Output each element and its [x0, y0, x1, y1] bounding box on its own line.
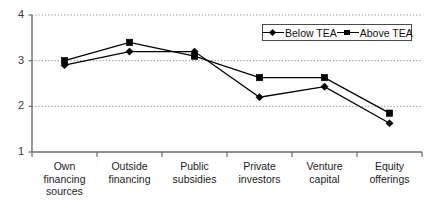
legend-label: Below TEA	[285, 27, 337, 39]
datapoint-below-tea-4	[321, 83, 328, 90]
datapoint-above-tea-2	[191, 53, 197, 59]
x-category-label-0: Own financingsources	[32, 160, 97, 198]
legend-diamond-icon	[268, 28, 275, 35]
line-chart: 1234 Own financingsourcesOutsidefinancin…	[0, 0, 434, 200]
x-category-label-3: Privateinvestors	[227, 160, 292, 185]
legend-label: Above TEA	[360, 27, 413, 39]
y-tick-label-3: 3	[8, 55, 24, 66]
legend-marker-diamond-icon	[262, 28, 284, 38]
legend-entry-below-tea[interactable]: Below TEA	[262, 27, 337, 39]
y-tick-label-2: 2	[8, 100, 24, 111]
x-axis-ticks	[32, 152, 422, 157]
x-category-label-4: Venturecapital	[292, 160, 357, 185]
series-line-above-tea	[65, 42, 390, 113]
datapoint-above-tea-4	[321, 74, 327, 80]
datapoint-below-tea-1	[126, 48, 133, 55]
legend-entry-above-tea[interactable]: Above TEA	[337, 27, 413, 39]
x-category-label-1: Outsidefinancing	[97, 160, 162, 185]
y-tick-label-1: 1	[8, 146, 24, 157]
legend: Below TEAAbove TEA	[262, 24, 412, 41]
datapoint-below-tea-5	[386, 120, 393, 127]
datapoint-above-tea-5	[386, 110, 392, 116]
x-category-label-2: Publicsubsidies	[162, 160, 227, 185]
x-category-label-5: Equityofferings	[357, 160, 422, 185]
y-tick-label-4: 4	[8, 9, 24, 20]
legend-marker-square-icon	[337, 28, 359, 38]
datapoint-above-tea-1	[126, 39, 132, 45]
datapoint-above-tea-0	[61, 57, 67, 63]
series-layer	[61, 39, 393, 127]
series-line-below-tea	[65, 52, 390, 124]
datapoint-above-tea-3	[256, 74, 262, 80]
legend-square-icon	[344, 30, 349, 35]
